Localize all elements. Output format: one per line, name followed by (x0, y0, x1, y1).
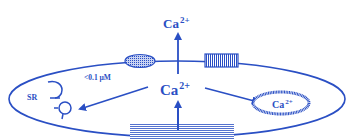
ca-center-label: Ca2+ (160, 80, 190, 98)
plasma-membrane-exchanger (205, 54, 238, 67)
ca-influx-channel (130, 123, 234, 139)
uptake-sr-arrow (80, 87, 148, 109)
sr-label: SR (27, 93, 37, 102)
uptake-mito-arrow (205, 88, 258, 102)
plasma-membrane-pump (125, 55, 155, 68)
ca-top-label: Ca2+ (163, 15, 190, 31)
calcium-diagram: Ca2+ <0.1 µM Ca2+ SR Ca2+ (0, 0, 351, 139)
concentration-label: <0.1 µM (84, 73, 111, 82)
sarcoplasmic-reticulum (48, 81, 71, 119)
